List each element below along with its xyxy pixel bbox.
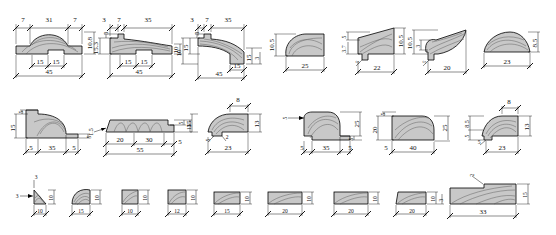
- dim-3-1-top-a: 3: [35, 174, 38, 180]
- dim-1-2-bot-right: 15: [141, 58, 149, 66]
- dim-2-2-bot-a: 20: [117, 136, 125, 144]
- dim-1-7-bot-total: 23: [504, 58, 512, 66]
- dim-3-1-right-v: 10: [48, 195, 54, 201]
- dim-2-1-bot-left: 5: [29, 144, 33, 152]
- dim-3-1-bot-total: 10: [37, 208, 43, 214]
- dim-2-3-top-a: 8: [236, 96, 240, 104]
- dim-1-2-left-v: 15.3: [92, 41, 100, 54]
- dim-3-6-right-v: 10: [306, 196, 312, 202]
- dim-1-2-left-v2: 3: [103, 31, 109, 34]
- dim-1-3-top-b: 7: [205, 16, 209, 24]
- dim-2-2-right-v: 5: [178, 121, 184, 124]
- profile-1-7: 8.5 23: [472, 14, 552, 80]
- dim-3-9-right-v: 15: [522, 192, 528, 198]
- dim-3-6-bot-total: 20: [282, 208, 288, 214]
- dim-2-5-left-v2: 5: [380, 112, 386, 115]
- dim-2-1-left-v2: 5: [18, 110, 24, 113]
- dim-1-2-top-a: 3: [102, 16, 106, 24]
- dim-1-3-bot-mid: 15: [234, 62, 242, 70]
- dim-2-6-bot-total: 23: [499, 144, 507, 152]
- dim-1-2-top-c: 35: [145, 16, 153, 24]
- dim-1-3-top-a: 3: [190, 16, 194, 24]
- dim-1-1-top-left: 7: [21, 16, 25, 24]
- dim-1-5-bot-left: 5: [354, 59, 361, 64]
- profile-2-2: 1.5 5 15 20 30 5 55: [88, 92, 200, 160]
- dim-2-1-left-v: 15: [9, 124, 17, 132]
- dim-1-2-bot-left: 15: [125, 58, 133, 66]
- dim-2-5-bot-left: 5: [384, 144, 388, 152]
- dim-2-2-bot-c: 5: [178, 138, 182, 146]
- dim-1-3-bot-total: 45: [216, 70, 224, 78]
- dim-1-5-bot-total: 22: [374, 64, 382, 72]
- dim-1-5-left-v2: 3.7: [341, 45, 347, 53]
- dim-2-6-bot-left: 5: [478, 139, 481, 145]
- dim-1-3-top-c: 35: [225, 16, 233, 24]
- dim-2-4-bot-right: 5: [348, 144, 352, 152]
- dim-3-5-right-v: 10: [244, 196, 250, 202]
- dim-1-3-left-v2: 15: [182, 44, 190, 52]
- dim-2-4-bot-mid: 35: [323, 144, 331, 152]
- dim-1-2-bot-total: 45: [136, 68, 144, 76]
- dim-1-4-left-v: 10.5: [268, 38, 276, 51]
- dim-3-3-right-v: 10: [142, 195, 148, 201]
- profile-3-7: 10 20: [322, 172, 392, 228]
- dim-2-2-left-v: 1.5: [88, 128, 94, 136]
- dim-2-2-bot-total: 55: [137, 146, 145, 154]
- dim-2-5-bot-total: 40: [410, 144, 418, 152]
- dim-3-1-left-v: 3: [16, 193, 19, 199]
- dim-3-2-bot-total: 15: [78, 208, 84, 214]
- dim-2-4-bot-left: 5: [300, 144, 304, 152]
- dim-2-3-right-v: 13: [253, 120, 261, 128]
- dim-3-2-right-v: 10: [94, 195, 100, 201]
- dim-3-8-bot-total: 20: [409, 208, 415, 214]
- dim-3-5-bot-total: 15: [224, 208, 230, 214]
- dim-1-6-bot-total: 20: [444, 64, 452, 72]
- profile-1-4: 10.5 25: [262, 14, 340, 80]
- dim-2-6-left-v: 8.5: [464, 120, 470, 128]
- dim-3-7-bot-total: 20: [348, 208, 354, 214]
- dim-2-1-bot-right: 5: [72, 144, 76, 152]
- dim-2-3-left-v: 15: [185, 120, 193, 128]
- dim-2-1-bot-mid: 35: [49, 144, 57, 152]
- dim-1-1-top-right: 7: [73, 16, 77, 24]
- dim-3-4-bot-total: 12: [174, 208, 180, 214]
- dim-1-3-left-v3: 3: [194, 31, 200, 34]
- dim-1-1-top-mid: 31: [46, 16, 54, 24]
- dim-3-7-right-v: 10: [372, 196, 378, 202]
- profile-2-3: 8 15 13 5 2 23: [186, 92, 286, 160]
- dim-1-1-bot-left: 15: [37, 58, 45, 66]
- dim-3-9-top-a: 2: [469, 173, 475, 176]
- dim-1-6-left-v2: 3: [415, 44, 421, 47]
- dim-2-3-bot-b: 2: [226, 134, 229, 140]
- dim-1-3-right-v: 15: [245, 54, 253, 62]
- dim-2-6-right-v: 13: [523, 123, 531, 131]
- dim-1-6-left-v: 10.5: [406, 36, 414, 49]
- dim-2-4-right-v: 25: [353, 120, 361, 128]
- dim-1-4-bot-total: 25: [302, 62, 310, 70]
- dim-1-1-bot-right: 15: [53, 58, 61, 66]
- dim-2-6-left-v2: 5: [464, 134, 470, 137]
- dim-2-5-left-v: 20: [371, 126, 379, 134]
- dim-1-3-right-v2: 3: [254, 56, 260, 59]
- dim-1-2-top-b: 7: [117, 16, 121, 24]
- dim-3-3-bot-total: 10: [127, 208, 133, 214]
- dim-2-6-top-a: 8: [507, 98, 511, 106]
- dim-2-4-left-v: 5: [282, 116, 288, 119]
- dim-2-2-bot-b: 30: [146, 136, 154, 144]
- dim-2-3-bot-total: 23: [225, 144, 233, 152]
- profile-3-5: 10 15: [202, 172, 264, 228]
- dim-1-6-bot-left: 5: [421, 59, 428, 64]
- dim-3-4-right-v: 10: [190, 195, 196, 201]
- profile-2-5: 20 5 25 5 40: [366, 92, 470, 160]
- dim-2-4-right-v2: 5: [348, 137, 354, 140]
- profile-3-6: 10 20: [256, 172, 326, 228]
- dim-1-7-right-v: 8.5: [531, 38, 539, 47]
- dim-2-5-right-v: 25: [441, 124, 449, 132]
- drawing-sheet: 7 31 7 10.8 15 15 45 3 7 35 15.3 3 10: [0, 0, 556, 235]
- dim-1-5-left-v: 5: [341, 35, 347, 38]
- profile-3-9: 2 15 33: [432, 170, 550, 228]
- profile-2-6: 8 8.5 5 13 5 23: [460, 92, 556, 160]
- dim-1-1-bot-total: 45: [46, 68, 54, 76]
- dim-3-9-bot-total: 33: [480, 208, 488, 216]
